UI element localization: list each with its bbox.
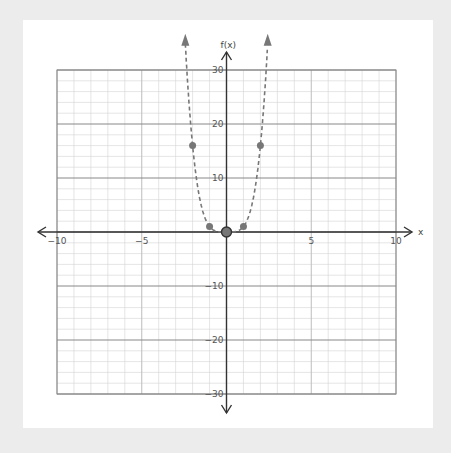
y-tick-label: −20 [205, 335, 224, 345]
x-tick-label: 10 [390, 236, 402, 246]
coordinate-plane: −10−5510302010−10−20−30 x f(x) [0, 0, 451, 453]
y-tick-label: 10 [212, 173, 224, 183]
x-axis-label: x [418, 227, 424, 237]
y-axis-label: f(x) [221, 40, 237, 50]
x-tick-label: 5 [308, 236, 314, 246]
x-tick-label: −5 [135, 236, 148, 246]
data-point [240, 223, 247, 230]
origin-point [222, 227, 232, 237]
data-point [257, 142, 264, 149]
data-point [206, 223, 213, 230]
y-tick-label: −10 [205, 281, 224, 291]
curve-right-arrow-icon [264, 34, 272, 46]
y-tick-label: 20 [212, 119, 224, 129]
y-tick-label: −30 [205, 389, 224, 399]
y-tick-label: 30 [212, 65, 224, 75]
curve-left-arrow-icon [181, 34, 189, 46]
x-tick-label: −10 [48, 236, 67, 246]
data-point [189, 142, 196, 149]
